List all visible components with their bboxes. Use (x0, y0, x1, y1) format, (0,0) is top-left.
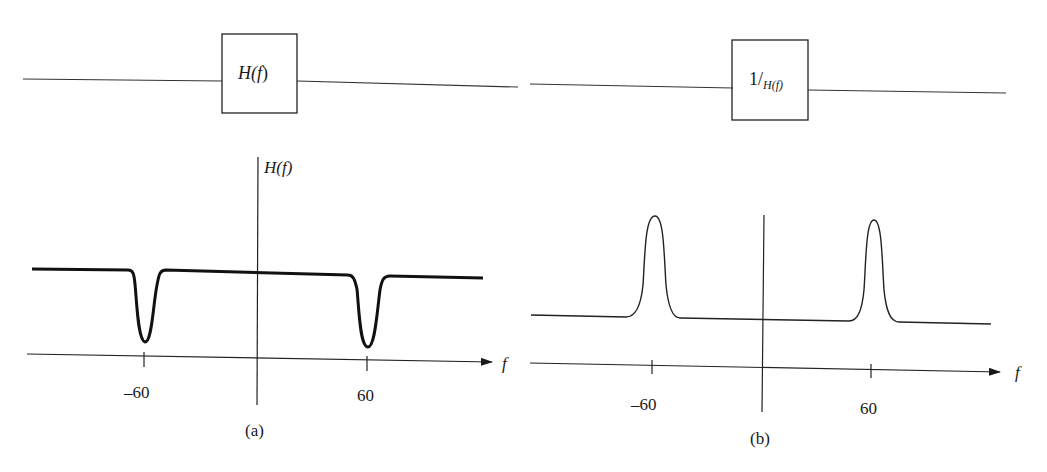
tick-label-neg60-a: –60 (124, 384, 150, 401)
y-axis-label-a: H(f) (264, 159, 292, 176)
signal-line-out-b (808, 90, 1006, 93)
y-axis-a (257, 157, 258, 405)
x-axis-label-b: f (1015, 364, 1020, 381)
peak-response-curve (531, 216, 991, 324)
caption-b: (b) (750, 430, 770, 447)
panel-b (530, 40, 1006, 412)
x-axis-b (530, 363, 1000, 372)
block-label-one-over: 1/ (749, 69, 763, 89)
filter-block-label-b: 1/H(f) (749, 70, 783, 91)
tick-label-60-b: 60 (860, 400, 877, 417)
x-axis-label-a: f (502, 355, 507, 372)
block-label-h: H( (238, 63, 257, 83)
panel-a (23, 34, 518, 405)
signal-line-in-a (23, 79, 222, 81)
tick-label-60-a: 60 (357, 387, 374, 404)
caption-a: (a) (245, 422, 264, 439)
block-label-sub: H(f) (763, 78, 783, 92)
block-label-close: ) (262, 63, 268, 83)
tick-label-neg60-b: –60 (631, 396, 657, 413)
x-axis-a (27, 354, 492, 362)
signal-line-out-a (297, 81, 518, 87)
y-axis-b (762, 215, 764, 412)
diagram-canvas (0, 0, 1047, 472)
filter-block-label-a: H(f) (238, 64, 268, 82)
signal-line-in-b (530, 84, 733, 88)
